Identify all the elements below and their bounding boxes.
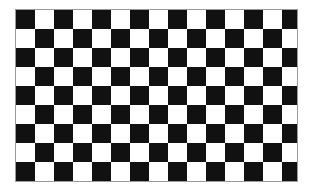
board-square <box>244 67 263 86</box>
board-square <box>130 10 149 29</box>
board-square <box>16 86 35 105</box>
board-square <box>206 143 225 162</box>
board-square <box>206 10 225 29</box>
board-square <box>73 143 92 162</box>
board-square <box>263 105 282 124</box>
board-square <box>111 86 130 105</box>
board-square <box>16 105 35 124</box>
board-square <box>92 10 111 29</box>
board-square <box>168 29 187 48</box>
board-square <box>16 29 35 48</box>
board-square <box>73 162 92 181</box>
board-square <box>187 10 206 29</box>
board-square <box>54 143 73 162</box>
board-square <box>244 105 263 124</box>
board-square <box>225 10 244 29</box>
board-square <box>149 67 168 86</box>
board-square <box>149 48 168 67</box>
board-square <box>168 124 187 143</box>
board-square <box>225 162 244 181</box>
board-square <box>73 105 92 124</box>
board-square <box>149 143 168 162</box>
board-square <box>187 162 206 181</box>
board-square <box>16 67 35 86</box>
board-square <box>244 29 263 48</box>
board-square <box>187 29 206 48</box>
board-square <box>206 162 225 181</box>
board-square <box>35 105 54 124</box>
board-square <box>35 162 54 181</box>
board-square <box>54 124 73 143</box>
board-square <box>282 67 297 86</box>
board-square <box>168 10 187 29</box>
board-square <box>16 124 35 143</box>
board-square <box>282 29 297 48</box>
board-square <box>206 67 225 86</box>
board-square <box>168 67 187 86</box>
board-square <box>35 29 54 48</box>
board-square <box>92 105 111 124</box>
board-square <box>16 10 35 29</box>
board-square <box>111 143 130 162</box>
board-square <box>130 124 149 143</box>
board-square <box>35 48 54 67</box>
board-square <box>73 48 92 67</box>
board-square <box>130 29 149 48</box>
board-square <box>187 67 206 86</box>
board-square <box>244 48 263 67</box>
board-square <box>73 29 92 48</box>
board-square <box>73 67 92 86</box>
board-square <box>282 86 297 105</box>
board-square <box>225 48 244 67</box>
board-square <box>168 162 187 181</box>
board-square <box>54 67 73 86</box>
board-square <box>111 29 130 48</box>
board-square <box>244 143 263 162</box>
board-square <box>149 86 168 105</box>
board-square <box>206 48 225 67</box>
board-square <box>92 48 111 67</box>
board-square <box>92 86 111 105</box>
board-square <box>111 67 130 86</box>
checkerboard <box>16 10 297 181</box>
board-square <box>282 124 297 143</box>
board-square <box>149 10 168 29</box>
board-square <box>244 162 263 181</box>
board-square <box>282 10 297 29</box>
board-square <box>225 67 244 86</box>
board-square <box>282 48 297 67</box>
board-square <box>263 48 282 67</box>
board-square <box>149 162 168 181</box>
board-square <box>282 143 297 162</box>
board-square <box>225 124 244 143</box>
board-square <box>35 67 54 86</box>
board-square <box>111 124 130 143</box>
board-square <box>73 124 92 143</box>
board-square <box>168 86 187 105</box>
board-square <box>225 86 244 105</box>
board-square <box>149 124 168 143</box>
board-square <box>92 162 111 181</box>
board-square <box>16 162 35 181</box>
board-square <box>130 48 149 67</box>
board-square <box>282 105 297 124</box>
board-square <box>35 143 54 162</box>
board-square <box>111 10 130 29</box>
board-square <box>54 48 73 67</box>
board-square <box>130 105 149 124</box>
board-square <box>149 29 168 48</box>
board-square <box>263 162 282 181</box>
board-square <box>168 143 187 162</box>
board-square <box>282 162 297 181</box>
board-square <box>35 124 54 143</box>
board-square <box>54 162 73 181</box>
board-square <box>263 29 282 48</box>
board-square <box>225 29 244 48</box>
board-square <box>54 86 73 105</box>
board-square <box>92 67 111 86</box>
board-square <box>54 105 73 124</box>
board-square <box>35 10 54 29</box>
board-square <box>263 10 282 29</box>
board-square <box>111 162 130 181</box>
board-square <box>16 48 35 67</box>
